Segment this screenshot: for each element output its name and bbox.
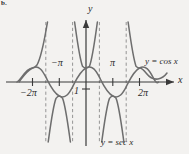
panel-letter-label: b. bbox=[1, 0, 7, 7]
x-axis-arrow-icon bbox=[166, 79, 174, 85]
secant-branch-neg-pi bbox=[48, 96, 70, 142]
y-axis-label: y bbox=[88, 4, 92, 14]
secant-branch-pos-2pi bbox=[128, 22, 167, 79]
cosine-curve-label: y = cos x bbox=[145, 57, 178, 66]
x-tick-label-pos-pi: π bbox=[110, 58, 115, 68]
x-axis-label: x bbox=[178, 75, 182, 85]
secant-branch-pos-pi bbox=[102, 96, 124, 142]
x-axis bbox=[6, 79, 174, 85]
y-axis bbox=[83, 20, 89, 146]
secant-curve-label: y = sec x bbox=[101, 138, 133, 147]
x-tick-label-neg-pi: −π bbox=[51, 58, 63, 68]
x-tick-label-neg-2pi: −2π bbox=[20, 88, 37, 98]
y-tick-label-one: 1 bbox=[74, 86, 79, 96]
figure-panel: b. y x −2π −π π 2π 1 y = cos x y = sec x bbox=[0, 0, 189, 154]
x-tick-label-pos-2pi: 2π bbox=[138, 88, 148, 98]
graph-canvas bbox=[0, 0, 189, 154]
y-axis-arrow-icon bbox=[83, 20, 89, 28]
